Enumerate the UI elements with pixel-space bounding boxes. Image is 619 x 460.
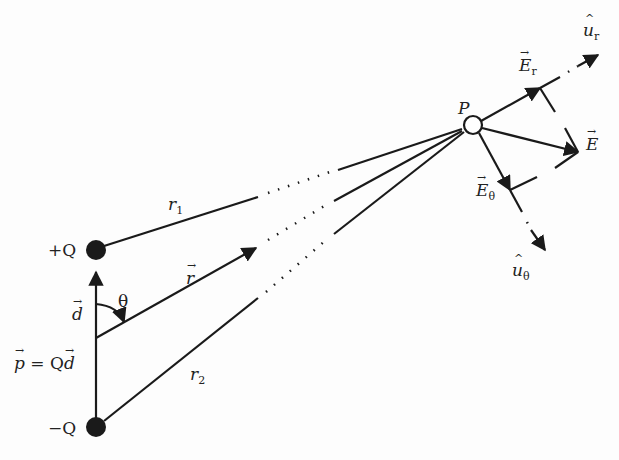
dipole-moment-label: p = Qd <box>14 355 75 372</box>
e-theta-tick <box>510 177 537 190</box>
r-dots <box>268 205 326 240</box>
e-theta-ext <box>510 190 522 212</box>
u-r-text: u <box>583 22 594 39</box>
r2-text: r <box>190 364 198 384</box>
r2-label: r2 <box>190 366 205 383</box>
dipole-d: d <box>64 355 75 372</box>
u-theta-arrow <box>531 230 545 250</box>
e-r-arrow <box>481 88 540 121</box>
e-proj-2 <box>555 152 578 168</box>
u-theta-label: uθ <box>512 262 530 279</box>
r2-line <box>104 298 258 421</box>
dipole-diagram: +Q −Q P r1 r2 r d θ p = Qd E Er Eθ ur uθ <box>0 0 619 460</box>
minus-charge <box>86 417 106 437</box>
theta-label: θ <box>118 293 128 310</box>
d-vector-label: d <box>72 306 83 323</box>
r1-text: r <box>168 194 176 214</box>
plus-q-label: +Q <box>48 242 76 259</box>
p-label: P <box>458 100 469 117</box>
dipole-eq: = Q <box>25 353 64 373</box>
r1-dots <box>268 172 330 193</box>
u-theta-sub: θ <box>523 270 530 283</box>
r-vec-text: r <box>186 270 194 287</box>
minus-q-label: −Q <box>48 420 76 437</box>
u-theta-text: u <box>512 262 523 279</box>
e-r-sub: r <box>531 65 536 78</box>
u-r-label: ur <box>583 22 599 39</box>
e-r-text: E <box>519 57 531 74</box>
plus-charge <box>86 240 106 260</box>
d-vec-text: d <box>72 306 83 323</box>
e-theta-sub: θ <box>488 190 495 203</box>
r2-line-far <box>334 132 464 234</box>
r2-dots <box>266 240 326 292</box>
r1-label: r1 <box>168 196 183 213</box>
e-r-label: Er <box>519 57 537 74</box>
u-r-arrow <box>578 55 598 66</box>
e-r-ext <box>540 77 560 88</box>
e-theta-label: Eθ <box>476 182 495 199</box>
e-theta-text: E <box>476 182 488 199</box>
u-r-dots <box>568 66 578 72</box>
point-p <box>464 116 482 134</box>
r1-sub: 1 <box>176 204 183 217</box>
u-r-sub: r <box>594 30 599 43</box>
e-text: E <box>586 136 598 153</box>
e-r-tick <box>540 88 555 112</box>
u-theta-dots <box>527 222 531 230</box>
r-vector-label: r <box>186 270 194 287</box>
e-arrow <box>482 128 578 152</box>
r2-sub: 2 <box>198 374 205 387</box>
e-label: E <box>586 136 598 153</box>
dipole-p: p <box>14 355 25 372</box>
